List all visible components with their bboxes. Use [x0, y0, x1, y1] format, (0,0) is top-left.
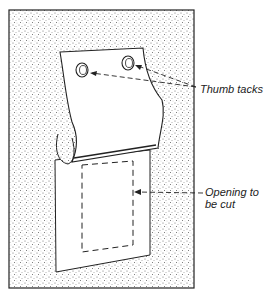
- sheet-lower: [55, 150, 150, 272]
- illustration: [0, 0, 274, 292]
- thumb-tack-icon: [122, 56, 134, 70]
- callout-thumb-tacks: Thumb tacks: [200, 83, 263, 95]
- callout-opening: Opening to be cut: [205, 186, 259, 210]
- thumb-tack-icon: [76, 63, 88, 77]
